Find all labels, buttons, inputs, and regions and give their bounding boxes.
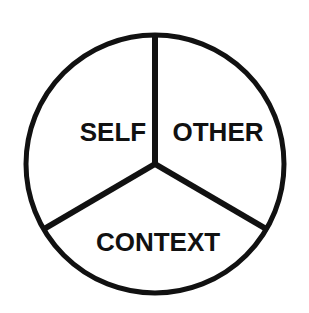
diagram-canvas: SELF OTHER CONTEXT — [0, 0, 309, 313]
segment-label-other: OTHER — [173, 117, 264, 147]
segment-label-self: SELF — [80, 117, 146, 147]
segment-label-context: CONTEXT — [96, 227, 220, 257]
venn-circle-diagram: SELF OTHER CONTEXT — [0, 0, 309, 313]
